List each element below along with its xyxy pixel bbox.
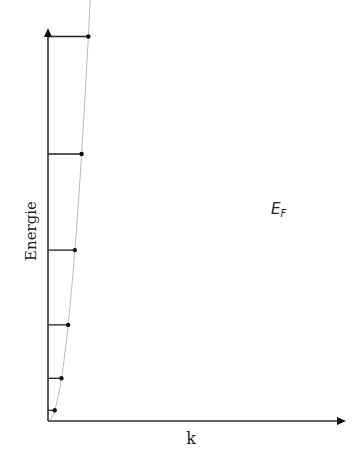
state-dot <box>53 408 57 412</box>
state-dot <box>73 248 77 252</box>
state-dot <box>66 323 70 327</box>
y-axis-label: Energie <box>22 201 40 261</box>
state-dot <box>86 34 90 38</box>
fermi-energy-label-sub: F <box>280 208 286 219</box>
state-dot <box>79 152 83 156</box>
fermi-energy-label: EF <box>271 200 286 219</box>
x-axis-arrow-icon <box>337 417 346 425</box>
state-dot <box>59 376 63 380</box>
energy-level-diagram: Energie k EF <box>0 0 363 465</box>
y-axis-arrow-icon <box>44 28 52 37</box>
x-axis-label: k <box>186 429 196 448</box>
